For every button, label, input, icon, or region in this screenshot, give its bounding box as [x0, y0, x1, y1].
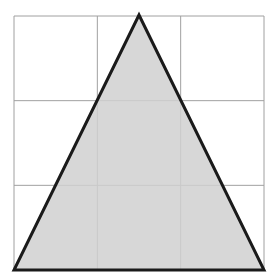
diagram-canvas [0, 0, 273, 280]
triangle [14, 15, 264, 270]
